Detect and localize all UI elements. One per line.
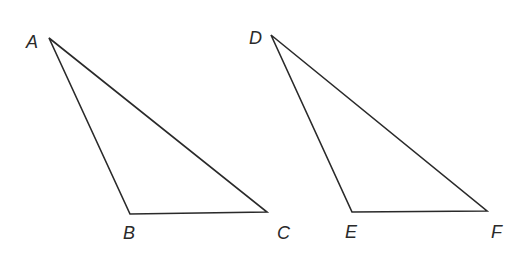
vertex-label-d: D xyxy=(249,28,262,48)
triangle-def-outline xyxy=(271,35,487,212)
vertex-label-f: F xyxy=(491,222,503,242)
vertex-label-b: B xyxy=(123,223,135,243)
vertex-label-a: A xyxy=(25,32,38,52)
vertex-label-e: E xyxy=(345,222,358,242)
triangle-def: D E F xyxy=(249,28,503,242)
triangle-abc-outline xyxy=(49,38,267,214)
vertex-label-c: C xyxy=(277,223,291,243)
triangles-diagram: A B C D E F xyxy=(0,0,529,254)
triangle-abc: A B C xyxy=(25,32,291,243)
